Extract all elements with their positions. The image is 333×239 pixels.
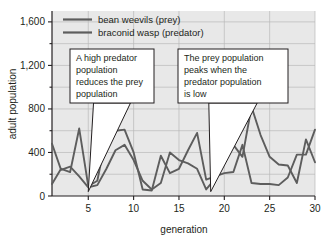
- annotation-predator-line-2: population: [76, 65, 118, 75]
- x-tick-label: 10: [128, 203, 140, 214]
- y-tick-label: 800: [28, 103, 45, 114]
- population-line-chart: 04008001,2001,600 51015202530 adult popu…: [0, 0, 333, 239]
- x-tick-label: 5: [85, 203, 91, 214]
- x-axis-tick-labels: 51015202530: [85, 203, 321, 214]
- annotation-prey-line-2: peaks when the: [184, 65, 247, 75]
- x-tick-label: 25: [264, 203, 276, 214]
- annotation-predator-line-3: reduces the prey: [76, 77, 144, 87]
- x-tick-label: 15: [173, 203, 185, 214]
- y-tick-label: 400: [28, 147, 45, 158]
- annotation-predator-line-4: population: [76, 89, 118, 99]
- chart-legend: bean weevils (prey) braconid wasp (preda…: [58, 12, 232, 40]
- y-axis-title: adult population: [7, 69, 18, 140]
- annotation-prey-line-1: The prey population: [184, 53, 264, 63]
- x-tick-label: 20: [219, 203, 231, 214]
- x-tick-label: 30: [309, 203, 321, 214]
- legend-label-prey: bean weevils (prey): [98, 14, 180, 25]
- annotation-predator-line-1: A high predator: [76, 53, 137, 63]
- annotation-predator: A high predator population reduces the p…: [70, 49, 154, 103]
- annotation-prey: The prey population peaks when the preda…: [178, 49, 288, 103]
- x-axis-title: generation: [160, 224, 207, 235]
- y-tick-label: 1,600: [20, 16, 45, 27]
- annotation-prey-line-4: is low: [184, 89, 207, 99]
- annotation-prey-line-3: predator population: [184, 77, 262, 87]
- y-tick-label: 0: [39, 191, 45, 202]
- y-axis-tick-labels: 04008001,2001,600: [20, 16, 45, 201]
- y-tick-label: 1,200: [20, 60, 45, 71]
- chart-container: 04008001,2001,600 51015202530 adult popu…: [0, 0, 333, 239]
- legend-label-predator: braconid wasp (predator): [98, 27, 204, 38]
- x-axis-ticks: [88, 196, 315, 200]
